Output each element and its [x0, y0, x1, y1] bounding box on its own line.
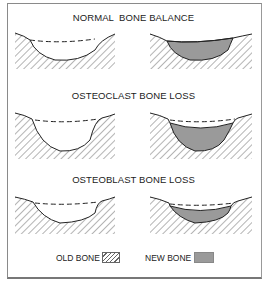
- panel-title-osteoblast-bone-loss: OSTEOBLAST BONE LOSS: [0, 174, 267, 185]
- panel-title-osteoclast-bone-loss: OSTEOCLAST BONE LOSS: [0, 90, 267, 101]
- osteoblast-loss-old-bone-pit: [15, 197, 115, 234]
- normal-balance-refilled: [150, 34, 252, 69]
- legend-new-bone-gray-swatch: [194, 252, 214, 263]
- original-surface-line: [30, 39, 95, 42]
- bone-remodeling-diagram: [0, 0, 267, 287]
- osteoclast-loss-old-bone-pit: [15, 113, 115, 159]
- original-surface-line: [170, 119, 235, 122]
- osteoblast-loss-under-refilled: [150, 197, 252, 234]
- legend-old-bone-hatch-swatch: [102, 252, 120, 263]
- osteoclast-loss-partially-refilled: [150, 113, 252, 159]
- normal-balance-old-bone-pit: [15, 33, 115, 69]
- original-surface-line: [170, 203, 234, 205]
- legend-old-bone-label: OLD BONE: [56, 253, 100, 263]
- panel-title-normal-bone-balance: NORMAL BONE BALANCE: [0, 12, 267, 23]
- original-surface-line: [35, 202, 98, 204]
- legend-new-bone-label: NEW BONE: [145, 253, 191, 263]
- original-surface-line: [35, 119, 98, 122]
